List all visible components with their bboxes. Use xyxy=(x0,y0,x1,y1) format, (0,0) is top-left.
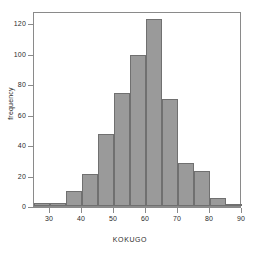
histogram-bar xyxy=(146,19,162,206)
y-axis-tick-label: 40 xyxy=(0,142,26,149)
y-axis-tick xyxy=(28,85,33,86)
y-axis-tick xyxy=(28,146,33,147)
histogram-bar xyxy=(162,99,178,206)
x-axis-tick xyxy=(113,208,114,213)
histogram-bar xyxy=(130,55,146,206)
x-axis-tick xyxy=(209,208,210,213)
y-axis-tick xyxy=(28,116,33,117)
histogram-bar xyxy=(98,134,114,206)
histogram-bar xyxy=(66,191,82,206)
x-axis-tick-label: 90 xyxy=(226,215,256,222)
x-axis-tick xyxy=(49,208,50,213)
y-axis-tick-label: 120 xyxy=(0,20,26,27)
x-axis-tick-label: 70 xyxy=(162,215,192,222)
histogram-bar xyxy=(226,204,242,206)
histogram-bar xyxy=(210,198,226,206)
plot-area xyxy=(33,12,241,207)
histogram-bar xyxy=(194,171,210,206)
y-axis-tick-label: 0 xyxy=(0,203,26,210)
x-axis-tick-label: 60 xyxy=(130,215,160,222)
histogram-bar xyxy=(178,163,194,206)
x-axis-tick xyxy=(177,208,178,213)
y-axis-tick xyxy=(28,177,33,178)
x-axis-tick-label: 50 xyxy=(98,215,128,222)
y-axis-line xyxy=(33,12,34,208)
y-axis-tick-label: 100 xyxy=(0,51,26,58)
histogram-bar xyxy=(114,93,130,206)
x-axis-tick xyxy=(241,208,242,213)
histogram-bar xyxy=(34,203,50,206)
x-axis-title: KOKUGO xyxy=(0,236,260,243)
histogram-bars xyxy=(34,13,240,206)
y-axis-tick-label: 20 xyxy=(0,173,26,180)
x-axis-tick xyxy=(145,208,146,213)
x-axis-tick-label: 80 xyxy=(194,215,224,222)
y-axis-title: frequency xyxy=(7,74,14,134)
x-axis-tick-label: 30 xyxy=(34,215,64,222)
histogram-figure: 020406080100120 frequency 30405060708090… xyxy=(0,0,260,256)
x-axis-tick xyxy=(81,208,82,213)
x-axis-tick-label: 40 xyxy=(66,215,96,222)
histogram-bar xyxy=(82,174,98,206)
histogram-bar xyxy=(50,203,66,206)
y-axis-tick xyxy=(28,55,33,56)
y-axis-tick xyxy=(28,24,33,25)
